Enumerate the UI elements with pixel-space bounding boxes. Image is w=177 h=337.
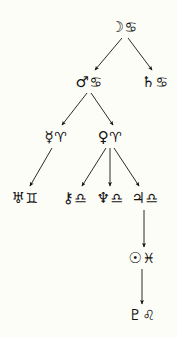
node-pluto-leo: ♇♌: [128, 308, 155, 323]
libra-icon: ♎: [110, 191, 123, 207]
node-mercury-aries: ☿♈: [45, 130, 68, 145]
pisces-icon: ♓: [142, 251, 155, 267]
libra-icon: ♎: [145, 191, 158, 207]
sun-icon: ☉: [128, 249, 142, 267]
node-uranus-gemini: ♅♊: [11, 191, 38, 206]
edge-mars-to-mercury: [62, 93, 87, 125]
uranus-icon: ♅: [11, 189, 25, 207]
edge-mercury-to-uranus: [30, 148, 52, 186]
cancer-icon: ♋: [155, 75, 168, 91]
saturn-icon: ♄: [141, 73, 155, 91]
node-neptune-libra: ♆♎: [96, 191, 123, 206]
node-jupiter-libra: ♃♎: [131, 191, 158, 206]
node-moon-cancer: ☽♋: [110, 20, 137, 35]
edge-venus-to-jupiter: [114, 148, 139, 186]
edge-moon-to-saturn: [128, 38, 152, 70]
edge-venus-to-chiron: [82, 148, 106, 186]
chiron-icon: ⚷: [63, 189, 75, 207]
venus-icon: ♀: [98, 128, 110, 146]
jupiter-icon: ♃: [131, 189, 145, 207]
edge-layer: [0, 0, 177, 337]
diagram-canvas: ☽♋♂♋♄♋☿♈♀♈♅♊⚷♎♆♎♃♎☉♓♇♌: [0, 0, 177, 337]
neptune-icon: ♆: [96, 189, 110, 207]
edge-moon-to-mars: [95, 38, 122, 70]
node-mars-cancer: ♂♋: [75, 75, 102, 90]
mercury-icon: ☿: [45, 128, 55, 146]
cancer-icon: ♋: [124, 20, 137, 36]
mars-icon: ♂: [75, 73, 89, 91]
node-venus-aries: ♀♈: [98, 130, 123, 145]
node-sun-pisces: ☉♓: [128, 251, 155, 266]
node-saturn-cancer: ♄♋: [141, 75, 168, 90]
node-chiron-libra: ⚷♎: [63, 191, 88, 206]
leo-icon: ♌: [142, 308, 155, 324]
moon-icon: ☽: [110, 18, 124, 36]
gemini-icon: ♊: [25, 191, 38, 207]
libra-icon: ♎: [74, 191, 87, 207]
aries-icon: ♈: [109, 130, 122, 146]
aries-icon: ♈: [54, 130, 67, 146]
cancer-icon: ♋: [89, 75, 102, 91]
edge-mars-to-venus: [91, 93, 113, 125]
pluto-icon: ♇: [128, 306, 142, 324]
